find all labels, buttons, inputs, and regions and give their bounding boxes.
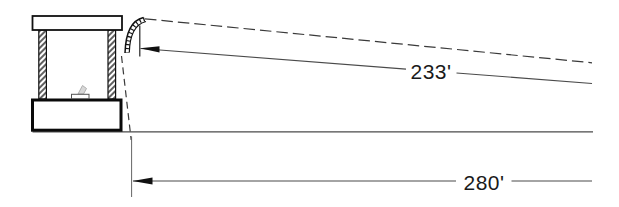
- dim-280-label: 280': [457, 172, 511, 193]
- right-post-hatched: [108, 30, 116, 99]
- foundation-footing: [33, 100, 122, 130]
- marker-figure: [78, 86, 87, 95]
- dim-233-label: 233': [406, 61, 456, 82]
- batter-dashed-line: [122, 56, 132, 140]
- technical-drawing-canvas: 233' 280': [0, 0, 619, 207]
- slope-dashed-line: [145, 19, 592, 63]
- dim-233-line-right: [457, 73, 593, 84]
- dim-280-arrowhead: [133, 178, 153, 185]
- benchmark-pedestal: [72, 94, 90, 98]
- left-post-hatched: [39, 30, 47, 99]
- elevation-drawing: [0, 0, 619, 207]
- dim-233-line-left: [141, 49, 407, 70]
- cap-beam: [33, 16, 123, 30]
- dim-233-arrowhead: [140, 46, 160, 52]
